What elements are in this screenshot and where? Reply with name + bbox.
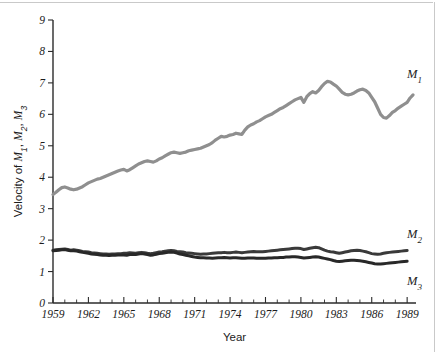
y-tick-label-7: 7 — [39, 77, 46, 89]
y-tick-label-5: 5 — [39, 140, 45, 152]
y-tick-label-4: 4 — [39, 171, 45, 183]
line-chart-plot: 0123456789195919621965196819711974197719… — [0, 0, 437, 354]
y-tick-label-6: 6 — [39, 108, 45, 120]
series-label-M3: M3 — [406, 274, 422, 292]
series-line-M1 — [53, 81, 413, 194]
y-tick-label-8: 8 — [39, 45, 45, 57]
x-tick-label-1962: 1962 — [77, 308, 100, 320]
x-tick-label-1974: 1974 — [219, 308, 242, 320]
x-tick-label-1959: 1959 — [42, 308, 65, 320]
x-tick-label-1986: 1986 — [360, 308, 383, 320]
series-line-M2 — [53, 247, 407, 254]
chart-figure: 0123456789195919621965196819711974197719… — [0, 0, 437, 354]
x-tick-label-1983: 1983 — [325, 308, 348, 320]
y-axis-title: Velocity of M1, M2, M3 — [12, 106, 29, 218]
x-tick-label-1977: 1977 — [254, 308, 278, 320]
x-tick-label-1965: 1965 — [112, 308, 135, 320]
x-tick-label-1971: 1971 — [183, 308, 206, 320]
series-label-M2: M2 — [406, 227, 422, 245]
y-tick-label-3: 3 — [38, 203, 45, 215]
y-tick-label-2: 2 — [39, 234, 45, 246]
x-tick-label-1989: 1989 — [396, 308, 419, 320]
x-axis-title: Year — [223, 331, 246, 343]
x-tick-label-1968: 1968 — [148, 308, 171, 320]
series-label-M1: M1 — [406, 67, 422, 85]
x-tick-label-1980: 1980 — [289, 308, 312, 320]
y-tick-label-9: 9 — [39, 14, 45, 26]
y-tick-label-1: 1 — [39, 266, 45, 278]
